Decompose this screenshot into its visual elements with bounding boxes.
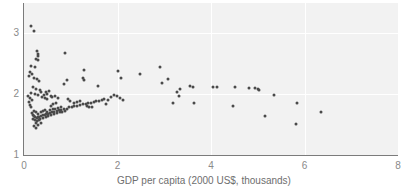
x-tick-label-6: 6 [302,161,308,171]
data-point [64,51,67,54]
data-point [231,105,234,108]
data-point [78,100,81,103]
data-point [264,114,267,117]
data-point [41,96,44,99]
data-point [115,95,118,98]
data-point [66,78,69,81]
data-point [89,101,92,104]
x-tick-label-8: 8 [395,161,401,171]
data-point [31,118,34,121]
x-tick-label-4: 4 [208,161,214,171]
gridline-vertical-4 [211,3,212,155]
data-point [76,104,79,107]
data-point [295,122,298,125]
x-tick-label-0: 0 [21,161,27,171]
data-point [234,85,237,88]
gridline-vertical-6 [305,3,306,155]
data-point [30,24,33,27]
x-tick-label-2: 2 [115,161,121,171]
data-point [91,105,94,108]
data-point [54,102,57,105]
data-point [59,106,62,109]
gridline-vertical-8 [398,3,399,155]
data-point [103,97,106,100]
data-point [167,77,170,80]
data-point [73,105,76,108]
data-point [105,102,108,105]
data-point [35,87,38,90]
data-point [295,101,298,104]
data-point [56,97,59,100]
data-point [117,69,120,72]
data-point [82,78,85,81]
data-point [110,96,113,99]
data-point [178,94,181,97]
data-point [79,103,82,106]
x-axis-line [24,155,398,156]
data-point [161,82,164,85]
data-point [33,66,36,69]
data-point [68,106,71,109]
data-point [176,90,179,93]
data-point [81,102,84,105]
gridline-horizontal-3 [24,33,398,34]
data-point [32,30,35,33]
gridline-vertical-2 [118,3,119,155]
data-point [39,121,42,124]
data-point [216,86,219,89]
data-point [192,85,195,88]
data-point [97,100,100,103]
data-point [83,69,86,72]
data-point [48,89,51,92]
data-point [37,59,40,62]
data-point [122,99,125,102]
data-point [257,89,260,92]
gridline-horizontal-2 [24,94,398,95]
data-point [100,99,103,102]
data-point [31,72,34,75]
data-point [248,86,251,89]
data-point [119,77,122,80]
y-tick-label-3: 3 [8,28,19,38]
y-tick-label-2: 2 [8,89,19,99]
data-point [272,93,275,96]
data-point [69,100,72,103]
data-point [63,82,66,85]
y-tick-label-1: 1 [8,150,19,160]
data-point [319,110,322,113]
data-point [96,85,99,88]
data-point [64,110,67,113]
data-point [45,98,48,101]
data-point [29,103,32,106]
data-point [172,102,175,105]
scatter-chart-figure: 02468 123 GDP per capita (2000 US$, thou… [0,0,408,195]
plot-area [24,3,398,155]
x-axis-title: GDP per capita (2000 US$, thousands) [0,176,408,186]
data-point [38,79,41,82]
data-point [107,99,110,102]
data-point [40,90,43,93]
data-point [212,86,215,89]
data-point [92,100,95,103]
data-point [50,105,53,108]
data-point [139,73,142,76]
data-point [37,93,40,96]
data-point [35,126,38,129]
data-point [29,91,32,94]
data-point [158,66,161,69]
data-point [31,99,34,102]
y-axis-line [23,3,24,156]
data-point [27,74,30,77]
data-point [192,102,195,105]
